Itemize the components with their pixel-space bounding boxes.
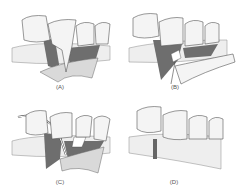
panel-c: (C) — [0, 97, 123, 194]
panel-label-d: (D) — [159, 179, 189, 185]
panel-d: (D) — [123, 97, 246, 194]
tooth-flap-illustration-b — [123, 0, 246, 97]
panel-label-b: (B) — [160, 84, 190, 90]
panel-label-c: (C) — [45, 179, 75, 185]
tooth-flap-illustration-a — [0, 0, 123, 97]
panel-b: (B) — [123, 0, 246, 97]
panel-a: (A) — [0, 0, 123, 97]
panel-label-a: (A) — [45, 84, 75, 90]
